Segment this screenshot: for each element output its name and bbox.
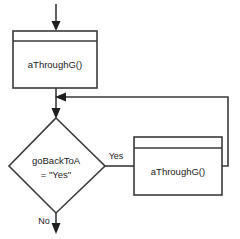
edge-label-no: No — [38, 216, 50, 226]
edge-process-top-to-decision — [52, 88, 61, 119]
edge-entry-to-process-top — [52, 4, 61, 31]
decision-node[interactable]: goBackToA = "Yes" — [9, 118, 105, 213]
process-right[interactable]: aThroughG() — [134, 137, 222, 195]
edge-label-yes: Yes — [109, 151, 124, 161]
process-top-label: aThroughG() — [28, 59, 82, 70]
process-right-label: aThroughG() — [151, 166, 205, 177]
decision-label-line2: = "Yes" — [41, 169, 71, 180]
flowchart-svg: aThroughG() goBackToA = "Yes" Yes — [0, 0, 240, 239]
edge-no-branch: No — [38, 213, 60, 234]
edge-yes-branch: Yes — [105, 151, 134, 166]
decision-label-line1: goBackToA — [32, 155, 81, 166]
flowchart-canvas: aThroughG() goBackToA = "Yes" Yes — [0, 0, 240, 239]
process-top[interactable]: aThroughG() — [13, 31, 97, 88]
